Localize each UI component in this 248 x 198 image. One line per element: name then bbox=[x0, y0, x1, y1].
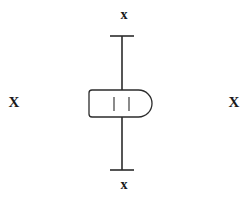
marker-top: x bbox=[114, 8, 134, 22]
capsule-body bbox=[89, 90, 152, 117]
marker-right: X bbox=[224, 95, 244, 110]
diagram-svg bbox=[0, 0, 248, 198]
marker-bottom: x bbox=[114, 178, 134, 192]
marker-left: X bbox=[4, 95, 24, 110]
drawing-canvas: x x X X bbox=[0, 0, 248, 198]
